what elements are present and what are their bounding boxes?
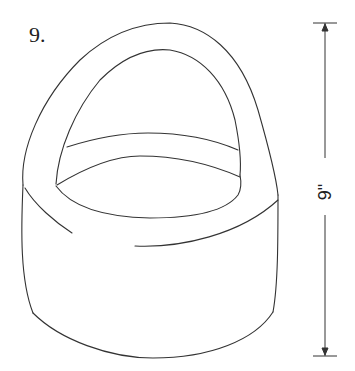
rim-band-upper xyxy=(67,133,238,150)
basket-body-left xyxy=(22,185,33,313)
rim-inner-front xyxy=(56,175,241,218)
rim-band-lower xyxy=(57,156,240,185)
basket-body-right xyxy=(273,195,278,312)
basket-drawing xyxy=(0,0,355,371)
rim-outer-right xyxy=(135,200,278,246)
arrow-up-icon xyxy=(322,24,328,31)
dimension-label: 9" xyxy=(313,180,337,204)
basket-body-bottom xyxy=(33,312,273,358)
handle-outer-edge xyxy=(23,23,278,195)
handle-inner-edge xyxy=(56,50,240,184)
figure-canvas: 9. xyxy=(0,0,355,371)
arrow-down-icon xyxy=(322,348,328,355)
